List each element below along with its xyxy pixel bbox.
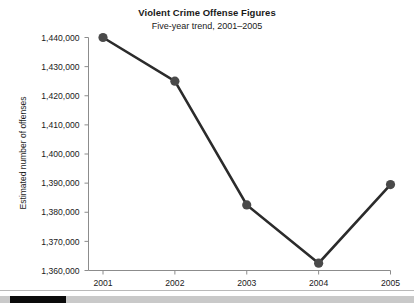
y-tick-label: 1,370,000 [41,237,79,247]
y-tick-label: 1,380,000 [41,207,79,217]
x-tick-label: 2004 [309,278,328,288]
y-axis-ticks: 1,440,0001,430,0001,420,0001,410,0001,40… [41,33,88,276]
scrollbar-thumb[interactable] [10,296,66,303]
data-point-markers [98,33,395,268]
y-tick-label: 1,360,000 [41,266,79,276]
y-tick-label: 1,410,000 [41,120,79,130]
chart-viewport: Violent Crime Offense Figures Five-year … [0,0,414,307]
y-tick-label: 1,420,000 [41,91,79,101]
y-tick-label: 1,390,000 [41,178,79,188]
x-tick-label: 2003 [237,278,256,288]
bottom-divider [0,290,414,291]
y-tick-label: 1,440,000 [41,33,79,43]
data-point-marker [98,33,107,42]
line-chart-plot: 1,440,0001,430,0001,420,0001,410,0001,40… [0,0,414,292]
y-tick-label: 1,400,000 [41,149,79,159]
x-axis-ticks: 20012002200320042005 [93,271,400,288]
x-tick-label: 2005 [381,278,400,288]
x-tick-label: 2001 [93,278,112,288]
data-point-marker [170,77,179,86]
data-point-marker [386,180,395,189]
data-point-marker [242,200,251,209]
horizontal-scrollbar[interactable] [0,296,414,303]
data-point-marker [314,259,323,268]
x-tick-label: 2002 [165,278,184,288]
y-tick-label: 1,430,000 [41,62,79,72]
data-series-line [103,38,391,264]
